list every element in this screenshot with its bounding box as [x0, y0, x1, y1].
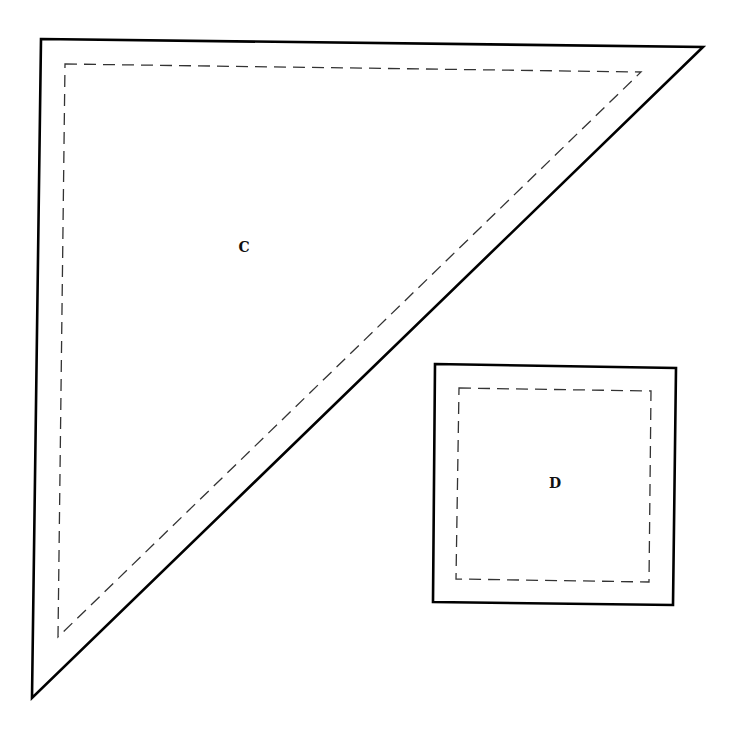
pattern-diagram: C D [0, 0, 739, 740]
piece-c-label: C [238, 239, 249, 255]
piece-d-label: D [549, 475, 561, 491]
piece-c-cut-line [32, 39, 703, 698]
piece-c-seam-line [58, 64, 641, 637]
piece-d: D [433, 364, 676, 605]
piece-c: C [32, 39, 703, 698]
